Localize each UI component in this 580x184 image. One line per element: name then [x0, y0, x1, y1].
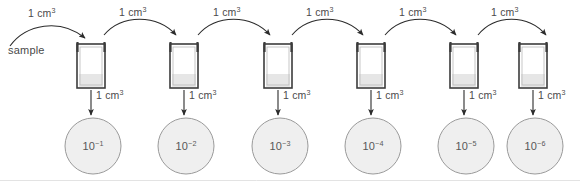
test-tubes-group: [77, 42, 547, 88]
tube-3[interactable]: [264, 42, 292, 88]
transfer-label: 1 cm3: [491, 5, 519, 18]
transfer-label: 1 cm3: [399, 5, 427, 18]
transfer-arrow-path: [478, 19, 546, 35]
transfer-arrows-group: 1 cm3 1 cm3 1 cm3 1 cm3 1 cm3 1 cm3: [10, 5, 546, 46]
transfer-arrow-path: [385, 19, 456, 35]
tube-2[interactable]: [170, 42, 198, 88]
transfer-tube-2-to-tube-3: 1 cm3: [198, 5, 270, 35]
dish-2[interactable]: 10−2: [158, 118, 214, 174]
transfer-tube-3-to-tube-4: 1 cm3: [292, 5, 363, 35]
transfer-sample-to-tube-1: 1 cm3: [10, 6, 85, 46]
transfer-arrow-path: [198, 19, 270, 35]
plating-label: 1 cm3: [469, 88, 497, 101]
transfer-label: 1 cm3: [306, 5, 334, 18]
plating-arrows-group: 1 cm3 1 cm3 1 cm3 1 cm3 1 cm3 1 cm3: [91, 88, 566, 115]
diagram-canvas: sample 1 cm3 1 cm3 1 cm3 1 cm3 1 cm3: [0, 0, 580, 184]
dish-5[interactable]: 10−5: [438, 118, 494, 174]
dish-1[interactable]: 10−1: [65, 118, 121, 174]
plating-5: 1 cm3: [464, 88, 497, 115]
tube-1[interactable]: [77, 42, 105, 88]
tube-5[interactable]: [450, 42, 478, 88]
plating-label: 1 cm3: [96, 88, 124, 101]
sample-label: sample: [8, 44, 45, 56]
tube-4[interactable]: [357, 42, 385, 88]
serial-dilution-diagram: sample 1 cm3 1 cm3 1 cm3 1 cm3 1 cm3: [0, 0, 580, 184]
transfer-tube-4-to-tube-5: 1 cm3: [385, 5, 456, 35]
plating-4: 1 cm3: [371, 88, 404, 115]
plating-label: 1 cm3: [283, 88, 311, 101]
transfer-label: 1 cm3: [28, 6, 56, 19]
plating-1: 1 cm3: [91, 88, 124, 115]
plating-3: 1 cm3: [278, 88, 311, 115]
transfer-arrow-path: [104, 19, 176, 35]
plating-label: 1 cm3: [189, 88, 217, 101]
transfer-label: 1 cm3: [119, 5, 147, 18]
plating-label: 1 cm3: [538, 88, 566, 101]
transfer-arrow-path: [10, 26, 85, 46]
transfer-tube-1-to-tube-2: 1 cm3: [104, 5, 176, 35]
dish-3[interactable]: 10−3: [252, 118, 308, 174]
tube-6[interactable]: [519, 42, 547, 88]
transfer-arrow-path: [292, 19, 363, 35]
plating-label: 1 cm3: [376, 88, 404, 101]
plating-2: 1 cm3: [184, 88, 217, 115]
transfer-tube-5-to-tube-6: 1 cm3: [478, 5, 546, 35]
dishes-group: 10−1 10−2 10−3 10−4 10−5 10−6: [65, 118, 563, 174]
dish-4[interactable]: 10−4: [345, 118, 401, 174]
dish-6[interactable]: 10−6: [507, 118, 563, 174]
transfer-label: 1 cm3: [213, 5, 241, 18]
plating-6: 1 cm3: [533, 88, 566, 115]
